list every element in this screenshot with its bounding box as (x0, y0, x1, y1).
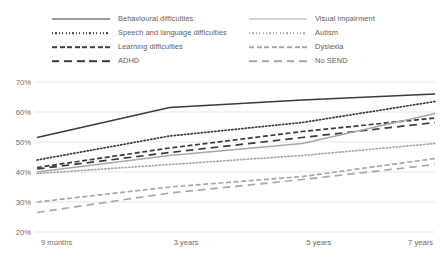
series-line-autism (37, 144, 435, 174)
legend-item-label: ADHD (118, 56, 139, 66)
legend-item-label: Visual impairment (315, 14, 375, 24)
y-axis-tick-label: 60% (16, 108, 31, 117)
y-axis-tick-label: 20% (16, 228, 31, 237)
legend-item-label: Behavioural difficulties (118, 14, 193, 24)
x-axis-tick-label: 7 years (408, 238, 433, 247)
legend-swatch-icon (52, 28, 110, 38)
series-line-visual-impairment (37, 114, 435, 173)
x-axis-tick-label: 3 years (174, 238, 199, 247)
legend-swatch-icon (249, 14, 307, 24)
legend-item-label: Dyslexia (315, 42, 344, 52)
y-axis-tick-label: 50% (16, 138, 31, 147)
legend-item-visual-impairment[interactable]: Visual impairment (249, 12, 375, 26)
legend-item-dyslexia[interactable]: Dyslexia (249, 40, 375, 54)
legend-item-label: No SEND (315, 56, 348, 66)
y-axis-tick-label: 40% (16, 168, 31, 177)
legend-item-speech-and-language-difficulties[interactable]: Speech and language difficulties (52, 26, 227, 40)
legend-item-autism[interactable]: Autism (249, 26, 375, 40)
legend-swatch-icon (249, 42, 307, 52)
legend-item-adhd[interactable]: ADHD (52, 54, 227, 68)
legend-swatch-icon (52, 14, 110, 24)
legend-column-left: Behavioural difficultiesSpeech and langu… (52, 12, 227, 68)
plot-svg: 70%60%50%40%30%20%9 months3 years5 years… (0, 74, 441, 270)
legend-item-no-send[interactable]: No SEND (249, 54, 375, 68)
series-line-learning-difficulties (37, 118, 435, 168)
legend-item-label: Speech and language difficulties (118, 28, 227, 38)
legend-item-learning-difficulties[interactable]: Learning difficulties (52, 40, 227, 54)
chart-legend: Behavioural difficultiesSpeech and langu… (52, 12, 436, 68)
chart-page: Behavioural difficultiesSpeech and langu… (0, 0, 441, 270)
legend-column-right: Visual impairmentAutismDyslexiaNo SEND (249, 12, 375, 68)
y-axis-tick-label: 30% (16, 198, 31, 207)
legend-item-label: Autism (315, 28, 338, 38)
line-chart: 70%60%50%40%30%20%9 months3 years5 years… (0, 74, 441, 270)
legend-swatch-icon (249, 28, 307, 38)
legend-item-label: Learning difficulties (118, 42, 183, 52)
series-line-speech-and-language-difficulties (37, 102, 435, 161)
series-line-behavioural-difficulties (37, 94, 435, 138)
legend-swatch-icon (249, 56, 307, 66)
legend-item-behavioural-difficulties[interactable]: Behavioural difficulties (52, 12, 227, 26)
x-axis-tick-label: 5 years (306, 238, 331, 247)
y-axis-tick-label: 70% (16, 78, 31, 87)
legend-swatch-icon (52, 42, 110, 52)
legend-swatch-icon (52, 56, 110, 66)
x-axis-tick-label: 9 months (41, 238, 72, 247)
